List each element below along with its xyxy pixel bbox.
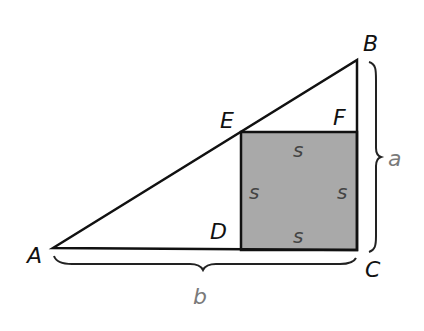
side-label-a: a xyxy=(388,146,401,171)
square-label-left: s xyxy=(249,180,259,204)
vertex-label-a: A xyxy=(25,243,42,268)
vertex-label-f: F xyxy=(333,105,346,130)
square-label-top: s xyxy=(293,138,303,162)
vertex-label-e: E xyxy=(220,108,234,133)
vertex-label-b: B xyxy=(363,31,378,56)
square-label-bottom: s xyxy=(293,224,303,248)
vertex-label-c: C xyxy=(365,257,381,282)
side-label-b: b xyxy=(193,284,207,309)
vertex-label-d: D xyxy=(210,219,227,244)
brace-b xyxy=(54,256,356,270)
brace-a xyxy=(369,62,381,252)
triangle-square-diagram: A B C D E F s s s s a b xyxy=(0,0,424,331)
square-label-right: s xyxy=(337,180,347,204)
